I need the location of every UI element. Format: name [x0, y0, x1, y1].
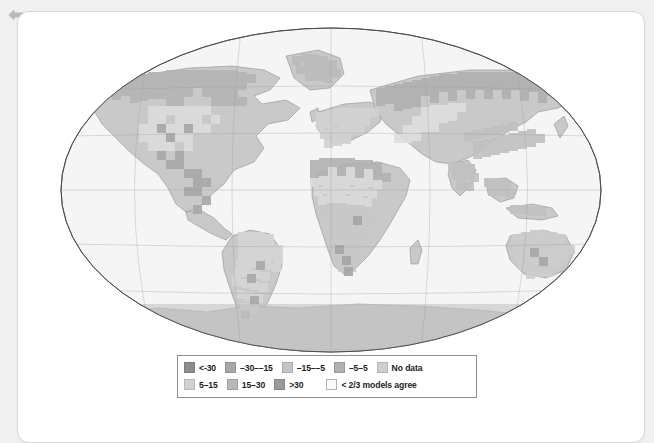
legend-swatch-minus30-minus15 — [225, 362, 236, 373]
legend-swatch-minus15-minus5 — [282, 362, 293, 373]
legend-label: –5–5 — [349, 363, 368, 373]
legend-item: –5–5 — [334, 362, 368, 373]
legend-label: < 2/3 models agree — [341, 380, 416, 390]
legend-label: No data — [392, 363, 423, 373]
legend-label: 15–30 — [242, 380, 265, 390]
legend-item: <-30 — [184, 362, 216, 373]
legend-row: 5–15 15–30 >30 < 2/3 models agree — [184, 377, 470, 392]
legend-item: No data — [377, 362, 423, 373]
map-legend: <-30 –30––15 –15––5 –5–5 — [177, 355, 477, 398]
legend-label: <-30 — [199, 363, 216, 373]
legend-item: –15––5 — [282, 362, 325, 373]
content-card: <-30 –30––15 –15––5 –5–5 — [17, 11, 645, 443]
legend-swatch-no-data — [377, 362, 388, 373]
world-map-figure: <-30 –30––15 –15––5 –5–5 — [18, 12, 644, 442]
legend-swatch-15-30 — [227, 379, 238, 390]
legend-swatch-gt-30 — [274, 379, 285, 390]
legend-label: 5–15 — [199, 380, 218, 390]
legend-swatch-models-disagree — [326, 379, 337, 390]
legend-label: –15––5 — [297, 363, 325, 373]
legend-label: >30 — [289, 380, 303, 390]
legend-item: –30––15 — [225, 362, 273, 373]
legend-item: < 2/3 models agree — [326, 379, 416, 390]
legend-item: 5–15 — [184, 379, 218, 390]
legend-item: 15–30 — [227, 379, 265, 390]
legend-label: –30––15 — [240, 363, 273, 373]
legend-swatch-minus5-5 — [334, 362, 345, 373]
legend-swatch-lt-minus30 — [184, 362, 195, 373]
legend-item: >30 — [274, 379, 303, 390]
legend-row: <-30 –30––15 –15––5 –5–5 — [184, 360, 470, 375]
legend-swatch-5-15 — [184, 379, 195, 390]
